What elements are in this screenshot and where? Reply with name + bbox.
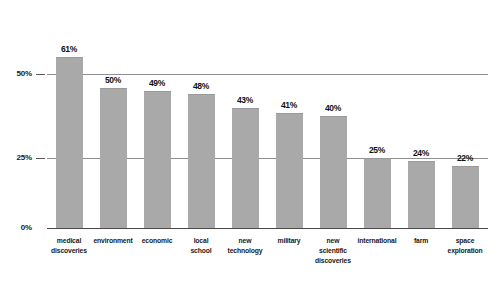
bar-group: 22%spaceexploration [443,0,487,282]
x-axis-category-line: school [179,246,223,256]
x-axis-line [47,228,488,229]
bar-value-label: 22% [443,153,487,163]
x-axis-category-line: scientific [311,246,355,256]
bar[interactable] [56,57,83,228]
bar[interactable] [276,113,303,228]
bar-group: 49%economic [135,0,179,282]
bar-group: 24%farm [399,0,443,282]
x-axis-category-line: new [223,236,267,246]
x-axis-category-label: economic [135,236,179,246]
x-axis-category-label: spaceexploration [443,236,487,256]
bar-value-label: 50% [91,75,135,85]
bar-value-label: 25% [355,145,399,155]
x-axis-category-line: medical [47,236,91,246]
x-axis-category-label: environment [91,236,135,246]
bar-group: 48%localschool [179,0,223,282]
x-axis-category-line: environment [91,236,135,246]
x-axis-category-line: military [267,236,311,246]
x-axis-category-line: discoveries [311,256,355,266]
bar-chart: 50% 25% 0% 61%medicaldiscoveries50%envir… [0,0,500,282]
x-axis-category-line: economic [135,236,179,246]
bar[interactable] [408,161,435,228]
bar[interactable] [452,166,479,228]
x-axis-category-label: military [267,236,311,246]
bar-value-label: 48% [179,81,223,91]
bar-value-label: 24% [399,148,443,158]
bar[interactable] [188,94,215,228]
bar-group: 50%environment [91,0,135,282]
x-axis-category-line: local [179,236,223,246]
bar[interactable] [144,91,171,228]
x-axis-category-line: space [443,236,487,246]
x-axis-category-line: exploration [443,246,487,256]
bar-group: 43%newtechnology [223,0,267,282]
bar-group: 61%medicaldiscoveries [47,0,91,282]
bars-layer: 61%medicaldiscoveries50%environment49%ec… [0,0,500,282]
x-axis-category-line: international [355,236,399,246]
bar-value-label: 43% [223,95,267,105]
x-axis-category-label: newtechnology [223,236,267,256]
x-axis-category-line: discoveries [47,246,91,256]
bar-value-label: 41% [267,100,311,110]
x-axis-category-label: farm [399,236,443,246]
bar-value-label: 49% [135,78,179,88]
bar-group: 25%international [355,0,399,282]
bar-group: 40%newscientificdiscoveries [311,0,355,282]
bar[interactable] [364,158,391,228]
x-axis-category-line: technology [223,246,267,256]
x-axis-category-line: farm [399,236,443,246]
bar-value-label: 40% [311,103,355,113]
x-axis-category-label: newscientificdiscoveries [311,236,355,266]
x-axis-category-label: international [355,236,399,246]
bar[interactable] [320,116,347,228]
bar[interactable] [232,108,259,228]
x-axis-category-label: localschool [179,236,223,256]
bar[interactable] [100,88,127,228]
bar-value-label: 61% [47,44,91,54]
x-axis-category-line: new [311,236,355,246]
x-axis-category-label: medicaldiscoveries [47,236,91,256]
bar-group: 41%military [267,0,311,282]
